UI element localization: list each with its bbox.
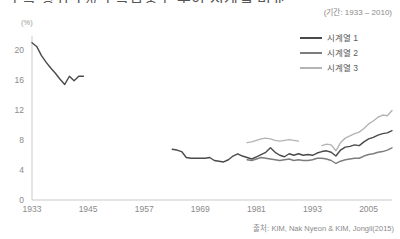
- x-tick-label: 1981: [236, 204, 276, 214]
- chart-source-note: 출처: KIM, Nak Nyeon & KIM, Jongil(2015): [253, 222, 394, 233]
- y-tick-label: 20: [4, 45, 24, 55]
- x-tick-label: 1993: [293, 204, 333, 214]
- series-line-3-segment-1: [247, 138, 298, 142]
- y-tick-label: 4: [4, 165, 24, 175]
- y-tick-label: 0: [4, 195, 24, 205]
- x-tick-label: 2005: [349, 204, 389, 214]
- x-tick-label: 1969: [180, 204, 220, 214]
- axis-lines: [32, 36, 392, 200]
- x-tick-label: 1957: [124, 204, 164, 214]
- x-tick-label: 1945: [68, 204, 108, 214]
- y-tick-label: 12: [4, 105, 24, 115]
- x-tick-label: 1933: [12, 204, 52, 214]
- series-paths: [32, 43, 392, 164]
- y-tick-label: 8: [4, 135, 24, 145]
- y-tick-label: 16: [4, 75, 24, 85]
- chart-figure: 소득 상위 1% 소득집중도 추이 시계열 비교 (기간: 1933 – 201…: [0, 0, 400, 239]
- series-line-1-segment-2: [172, 131, 392, 162]
- series-line-1-segment-1: [32, 43, 83, 85]
